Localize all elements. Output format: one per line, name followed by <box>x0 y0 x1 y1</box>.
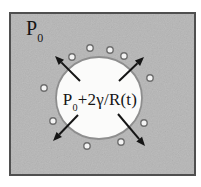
nucleus-dot <box>107 47 113 53</box>
nucleus-dot <box>141 120 147 126</box>
nucleus-dot <box>87 45 93 51</box>
nucleus-dot <box>84 143 90 149</box>
bubble-pressure-expression: +2γ/R(t) <box>78 90 137 109</box>
nucleus-dot <box>50 118 56 124</box>
nucleus-dot <box>69 54 75 60</box>
nucleus-dot <box>118 139 124 145</box>
bubble-pressure-subscript: 0 <box>73 102 78 113</box>
ambient-pressure-label: P0 <box>26 18 43 38</box>
bubble-pressure-symbol: P <box>63 90 73 109</box>
nucleus-dot <box>147 75 153 81</box>
nucleus-dot <box>41 85 47 91</box>
nucleus-dot <box>121 53 127 59</box>
bubble-pressure-label: P0+2γ/R(t) <box>63 91 137 108</box>
figure: P0 P0+2γ/R(t) <box>0 0 201 187</box>
ambient-pressure-symbol: P <box>26 17 37 39</box>
ambient-pressure-subscript: 0 <box>37 31 43 45</box>
